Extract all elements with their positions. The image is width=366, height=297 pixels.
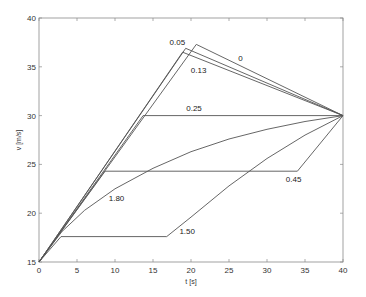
x-tick-label: 40 [339,266,348,275]
x-axis-label: t [s] [185,278,196,286]
curve-label: 1.50 [179,227,195,236]
y-tick-label: 30 [27,112,36,121]
y-tick-label: 40 [27,14,36,23]
x-tick-label: 15 [149,266,158,275]
x-tick-label: 20 [187,266,196,275]
x-tick-label: 35 [301,266,310,275]
y-tick-label: 15 [27,258,36,267]
y-tick-label: 25 [27,160,36,169]
curve-label: 0.45 [286,175,302,184]
curve-label: 0.05 [170,38,186,47]
curve-label: 1.80 [109,194,125,203]
x-tick-label: 0 [37,266,42,275]
y-tick-label: 20 [27,209,36,218]
x-tick-label: 5 [75,266,80,275]
x-tick-label: 10 [111,266,120,275]
x-tick-label: 30 [263,266,272,275]
curve-label: 0 [238,54,243,63]
curve-label: 0.25 [186,104,202,113]
x-tick-label: 25 [225,266,234,275]
y-tick-label: 35 [27,63,36,72]
curve-label: 0.13 [191,66,207,75]
y-axis-label: v [m/s] [15,130,23,151]
speed-time-chart: 0510152025303540152025303540 00.050.130.… [0,0,366,297]
